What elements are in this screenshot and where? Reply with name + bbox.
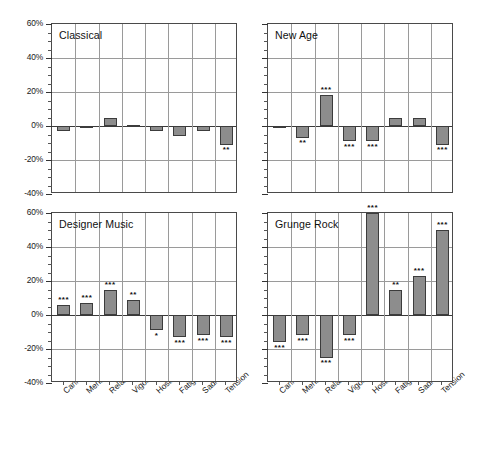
y-axis-tick-minor: [264, 358, 268, 359]
significance-marker: **: [392, 280, 399, 289]
plot-area: *********************Designer Music: [51, 212, 237, 382]
y-axis-tick-minor: [48, 230, 52, 231]
gridline-horizontal: [268, 247, 452, 248]
bar-tension: [220, 315, 233, 337]
y-axis-tick-major: [262, 24, 268, 25]
bar-caring: [57, 126, 70, 131]
y-axis-tick-minor: [264, 109, 268, 110]
y-axis-tick-minor: [48, 290, 52, 291]
y-axis-tick-minor: [264, 222, 268, 223]
y-axis-tick-minor: [264, 290, 268, 291]
bar-mental-clarity: [296, 315, 309, 335]
bar-sadness: [197, 315, 210, 335]
gridline-vertical: [338, 213, 339, 381]
y-axis-tick-minor: [264, 75, 268, 76]
significance-marker: ***: [105, 280, 116, 289]
y-axis-tick-minor: [264, 33, 268, 34]
gridline-vertical: [145, 213, 146, 381]
y-axis-tick-minor: [48, 264, 52, 265]
significance-marker: ***: [367, 203, 378, 212]
panel-new-age: **************New Age: [267, 23, 453, 193]
gridline-vertical: [99, 24, 100, 192]
y-axis-tick-major: [46, 213, 52, 214]
y-axis-tick-minor: [48, 256, 52, 257]
y-axis-tick-minor: [48, 222, 52, 223]
gridline-vertical: [291, 24, 292, 192]
gridline-vertical: [315, 213, 316, 381]
bar-sadness: [413, 276, 426, 315]
gridline-vertical: [145, 24, 146, 192]
gridline-vertical: [122, 24, 123, 192]
bar-fatigue: [173, 315, 186, 337]
y-axis-tick-minor: [264, 41, 268, 42]
y-axis-tick-major: [46, 92, 52, 93]
y-axis-tick-major: [46, 24, 52, 25]
y-axis-label: 40%: [7, 52, 43, 62]
bar-relaxation: [320, 95, 333, 126]
y-axis-tick-minor: [264, 84, 268, 85]
gridline-vertical: [215, 24, 216, 192]
panel-title: Classical: [59, 29, 102, 41]
y-axis-label: -40%: [7, 377, 43, 387]
y-axis-tick-major: [46, 58, 52, 59]
y-axis-label: 20%: [7, 275, 43, 285]
gridline-horizontal: [268, 92, 452, 93]
gridline-vertical: [75, 213, 76, 381]
gridline-vertical: [384, 24, 385, 192]
significance-marker: ***: [274, 343, 285, 352]
y-axis-label: -20%: [7, 154, 43, 164]
gridline-horizontal: [52, 160, 236, 161]
y-axis-tick-minor: [264, 50, 268, 51]
y-axis-tick-major: [262, 126, 268, 127]
y-axis-label: 60%: [7, 207, 43, 217]
significance-marker: ***: [437, 220, 448, 229]
y-axis-tick-minor: [264, 152, 268, 153]
significance-marker: ***: [175, 338, 186, 347]
y-axis-label: 0%: [7, 120, 43, 130]
y-axis-label: 60%: [7, 18, 43, 28]
y-axis-tick-minor: [48, 67, 52, 68]
y-axis-tick-minor: [48, 366, 52, 367]
bar-tension: [220, 126, 233, 145]
gridline-vertical: [361, 24, 362, 192]
y-axis-label: 0%: [7, 309, 43, 319]
y-axis-tick-minor: [48, 169, 52, 170]
gridline-vertical: [99, 213, 100, 381]
significance-marker: ***: [298, 336, 309, 345]
bar-hostility: [366, 213, 379, 315]
bar-hostility: [150, 315, 163, 330]
gridline-vertical: [192, 24, 193, 192]
y-axis-tick-minor: [48, 101, 52, 102]
y-axis-tick-minor: [264, 67, 268, 68]
y-axis-tick-minor: [264, 230, 268, 231]
y-axis-tick-minor: [48, 239, 52, 240]
bar-tension: [436, 230, 449, 315]
gridline-vertical: [168, 24, 169, 192]
y-axis-tick-minor: [48, 143, 52, 144]
bar-vigor: [127, 300, 140, 315]
gridline-horizontal: [268, 58, 452, 59]
significance-marker: **: [130, 290, 137, 299]
significance-marker: ***: [321, 358, 332, 367]
y-axis-tick-major: [262, 213, 268, 214]
y-axis-label: -40%: [7, 188, 43, 198]
gridline-vertical: [75, 24, 76, 192]
y-axis-tick-minor: [264, 177, 268, 178]
bar-relaxation: [104, 118, 117, 127]
significance-marker: ***: [344, 142, 355, 151]
significance-marker: ***: [437, 145, 448, 154]
y-axis-tick-minor: [264, 135, 268, 136]
y-axis-tick-minor: [264, 307, 268, 308]
plot-area: **************New Age: [267, 23, 453, 193]
significance-marker: **: [299, 138, 306, 147]
bar-fatigue: [173, 126, 186, 136]
y-axis-tick-minor: [48, 324, 52, 325]
gridline-vertical: [384, 213, 385, 381]
bar-relaxation: [320, 315, 333, 358]
y-axis-tick-minor: [48, 375, 52, 376]
y-axis-tick-minor: [264, 375, 268, 376]
y-axis-tick-major: [46, 281, 52, 282]
significance-marker: ***: [198, 336, 209, 345]
y-axis-tick-minor: [48, 41, 52, 42]
y-axis-tick-minor: [48, 332, 52, 333]
